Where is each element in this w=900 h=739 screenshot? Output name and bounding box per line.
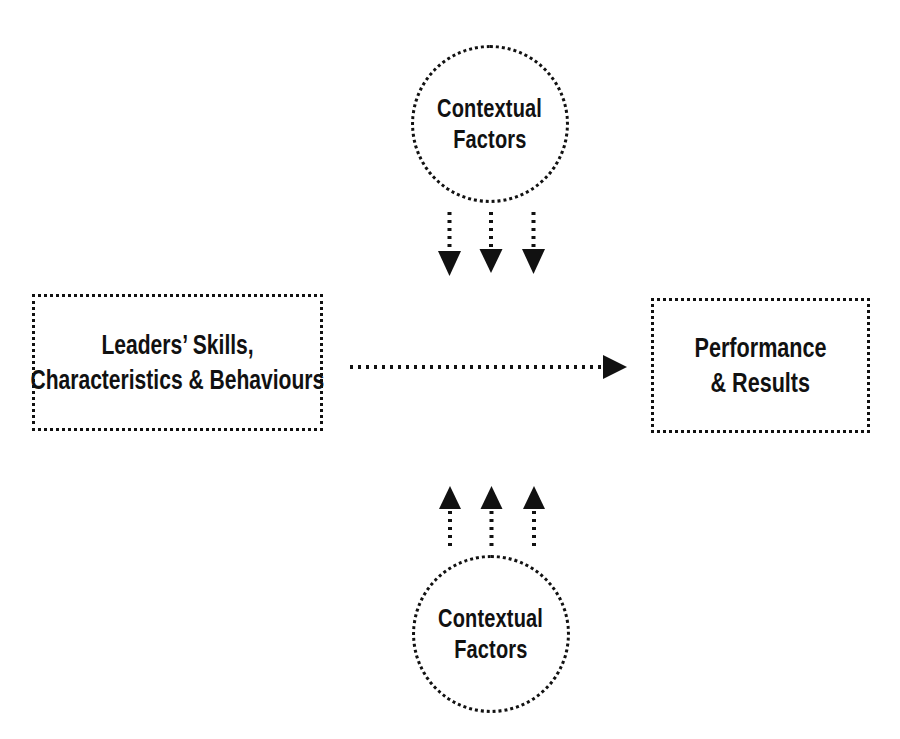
down-arrow-2-head bbox=[480, 249, 503, 273]
contextual-factors-bottom-label-line1: Contextual bbox=[439, 603, 544, 634]
leaders-skills-label-line2: Characteristics & Behaviours bbox=[31, 363, 325, 398]
leaders-to-performance-arrow bbox=[350, 355, 627, 379]
down-arrow-2 bbox=[480, 212, 503, 273]
down-arrow-1 bbox=[438, 212, 461, 276]
leaders-skills-node: Leaders’ Skills, Characteristics & Behav… bbox=[32, 294, 323, 431]
down-arrow-3 bbox=[522, 212, 545, 274]
down-arrow-1-head bbox=[438, 251, 461, 276]
up-arrow-3-head bbox=[523, 486, 545, 509]
up-arrow-2-head bbox=[481, 486, 503, 509]
up-arrow-2 bbox=[481, 486, 503, 546]
up-arrow-3 bbox=[523, 486, 545, 546]
down-arrow-3-head bbox=[522, 249, 545, 274]
contextual-factors-bottom-node: Contextual Factors bbox=[412, 555, 570, 713]
main-flow-head bbox=[603, 355, 627, 379]
diagram-canvas: Contextual Factors Leaders’ Skills, Char… bbox=[0, 0, 900, 739]
contextual-factors-up-arrows bbox=[439, 486, 545, 546]
contextual-factors-top-label-line1: Contextual bbox=[438, 93, 543, 124]
up-arrow-1-head bbox=[439, 486, 461, 509]
performance-results-label-line2: & Results bbox=[711, 366, 811, 401]
contextual-factors-top-label-line2: Factors bbox=[453, 124, 526, 155]
performance-results-label-line1: Performance bbox=[694, 331, 826, 366]
leaders-skills-label-line1: Leaders’ Skills, bbox=[101, 328, 253, 363]
performance-results-node: Performance & Results bbox=[651, 298, 870, 433]
contextual-factors-down-arrows bbox=[438, 212, 545, 276]
contextual-factors-top-node: Contextual Factors bbox=[411, 45, 569, 203]
up-arrow-1 bbox=[439, 486, 461, 546]
contextual-factors-bottom-label-line2: Factors bbox=[454, 634, 527, 665]
